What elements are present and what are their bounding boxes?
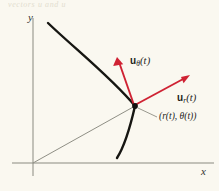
u-theta-argument: (t) [140, 55, 150, 66]
u-r-argument: (t) [186, 92, 196, 103]
point-marker [132, 103, 138, 109]
polar-coordinates-figure: vectors u and u y x uθ(t) u [0, 0, 219, 191]
point-label-leader [138, 108, 157, 117]
u-r-label: ur(t) [177, 93, 196, 104]
u-theta-label: uθ(t) [130, 56, 150, 67]
point-coordinates-label: (r(t), θ(t)) [159, 112, 196, 122]
trajectory-curve [48, 23, 135, 158]
x-axis-label: x [201, 166, 206, 177]
point-coordinates-text: (r(t), θ(t)) [159, 111, 196, 121]
y-axis-label: y [28, 12, 33, 23]
